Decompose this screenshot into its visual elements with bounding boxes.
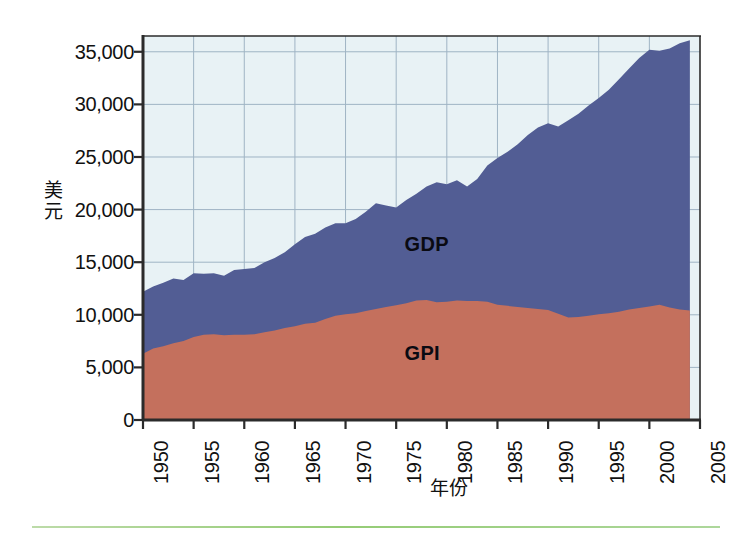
gdp-series-label: GDP	[405, 233, 449, 256]
x-axis-tick-labels: 1950195519601965197019751980198519901995…	[0, 0, 746, 541]
bottom-divider	[32, 526, 720, 528]
gpi-series-label: GPI	[405, 342, 440, 365]
x-axis-title-text: 年份	[430, 477, 468, 499]
gdp-gpi-area-chart: 美元 05,00010,00015,00020,00025,00030,0003…	[0, 0, 746, 541]
x-axis-title: 年份	[0, 477, 746, 499]
